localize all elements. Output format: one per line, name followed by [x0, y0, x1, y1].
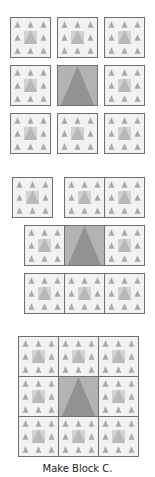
- center-triangle-block: [64, 225, 105, 266]
- center-triangle-block: [58, 376, 99, 417]
- pieced-block: [58, 416, 99, 457]
- pieced-block: [24, 225, 65, 266]
- pieced-block: [10, 113, 51, 154]
- pieced-block: [58, 336, 99, 377]
- pieced-block: [98, 416, 139, 457]
- pieced-block: [10, 65, 51, 106]
- pieced-block: [104, 17, 145, 58]
- center-triangle-block: [57, 65, 98, 106]
- pieced-block: [104, 113, 145, 154]
- pieced-block: [18, 336, 59, 377]
- pieced-block: [10, 17, 51, 58]
- pieced-block: [104, 177, 145, 218]
- pieced-block: [18, 416, 59, 457]
- pieced-block: [57, 113, 98, 154]
- figure-caption: Make Block C.: [0, 463, 155, 474]
- pieced-block: [24, 273, 65, 314]
- pieced-block: [104, 273, 145, 314]
- pieced-block: [98, 376, 139, 417]
- pieced-block: [104, 225, 145, 266]
- pieced-block: [98, 336, 139, 377]
- pieced-block: [12, 177, 53, 218]
- pieced-block: [64, 177, 105, 218]
- pieced-block: [18, 376, 59, 417]
- pieced-block: [64, 273, 105, 314]
- pieced-block: [104, 65, 145, 106]
- pieced-block: [57, 17, 98, 58]
